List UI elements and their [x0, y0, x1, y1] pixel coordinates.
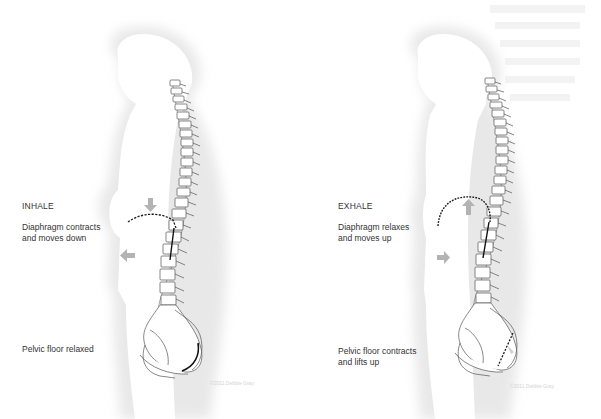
pelvic-caption-line1: Pelvic floor relaxed [22, 344, 94, 355]
diaphragm-caption-line2: and moves up [338, 233, 391, 244]
inhale-panel: INHALE Diaphragm contracts and moves dow… [0, 0, 300, 419]
pelvic-caption-line2: and lifts up [338, 357, 379, 368]
pelvic-caption-line1: Pelvic floor contracts [338, 346, 416, 357]
diaphragm-caption-line1: Diaphragm contracts [22, 222, 100, 233]
diaphragm-caption-line2: and moves down [22, 233, 86, 244]
phase-title: INHALE [22, 201, 54, 212]
ghost-text-block [490, 5, 585, 101]
exhale-panel: EXHALE Diaphragm relaxes and moves up Pe… [300, 0, 601, 419]
phase-title: EXHALE [338, 201, 373, 212]
copyright-text: ©2011 Debbie Gray [510, 383, 554, 389]
diaphragm-caption-line1: Diaphragm relaxes [338, 222, 409, 233]
copyright-text: ©2011 Debbie Gray [210, 380, 254, 386]
